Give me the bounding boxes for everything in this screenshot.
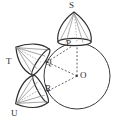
label-point-r: R	[45, 84, 51, 93]
label-point-p: P	[66, 39, 71, 48]
label-point-s: S	[69, 1, 74, 10]
label-point-o: O	[80, 71, 87, 80]
cone-s	[58, 12, 92, 46]
geometry-diagram: S P T Q O R U	[0, 0, 120, 129]
label-point-t: T	[6, 57, 12, 66]
segment-or	[48, 76, 77, 91]
cone-t	[8, 33, 52, 77]
cone-s-base-ellipse	[58, 38, 91, 45]
diagram-canvas	[0, 0, 120, 129]
point-dot-o	[76, 75, 78, 77]
label-point-q: Q	[45, 58, 52, 67]
label-point-u: U	[11, 109, 18, 118]
